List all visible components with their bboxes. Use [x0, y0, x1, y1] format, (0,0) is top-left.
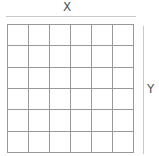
grid-cell [91, 109, 112, 130]
grid-cell [112, 67, 133, 88]
grid-cell [112, 109, 133, 130]
grid-cell [7, 88, 28, 109]
grid-cell [28, 24, 49, 45]
grid-cell [70, 131, 91, 152]
y-dimension-line [143, 26, 144, 154]
grid-cell [91, 24, 112, 45]
grid-cell [91, 131, 112, 152]
x-dimension-line [6, 16, 136, 17]
grid-cell [49, 24, 70, 45]
grid-cell [49, 131, 70, 152]
grid-cell [7, 45, 28, 66]
grid-cell [49, 45, 70, 66]
grid-cell [112, 88, 133, 109]
grid-cell [28, 109, 49, 130]
grid-cell [49, 88, 70, 109]
grid-cell [7, 109, 28, 130]
grid-cell [70, 109, 91, 130]
grid-cell [28, 67, 49, 88]
grid-cell [70, 67, 91, 88]
grid-cell [7, 67, 28, 88]
grid-cell [28, 45, 49, 66]
grid-cell [49, 67, 70, 88]
grid-cell [112, 24, 133, 45]
grid-cell [91, 88, 112, 109]
grid-cell [70, 24, 91, 45]
grid-cell [112, 131, 133, 152]
y-axis-label: Y [147, 83, 154, 95]
grid-cell [91, 45, 112, 66]
x-axis-label: X [63, 1, 71, 13]
grid-cell [70, 45, 91, 66]
grid [7, 24, 134, 153]
grid-cell [91, 67, 112, 88]
grid-cell [7, 24, 28, 45]
grid-cell [70, 88, 91, 109]
grid-cell [112, 45, 133, 66]
grid-cell [28, 88, 49, 109]
grid-cell [49, 109, 70, 130]
grid-cell [28, 131, 49, 152]
grid-cell [7, 131, 28, 152]
